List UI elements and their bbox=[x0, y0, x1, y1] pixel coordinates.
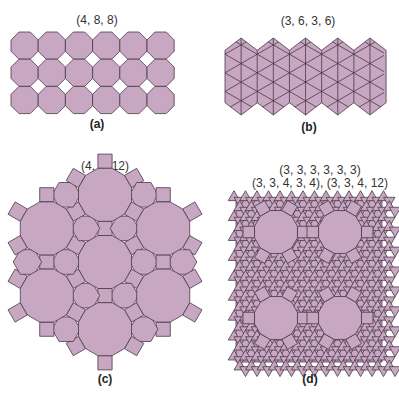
dodecagon bbox=[255, 297, 298, 340]
dodecagon bbox=[255, 211, 298, 254]
square bbox=[307, 226, 319, 238]
triangle bbox=[389, 227, 399, 237]
tiling-3-3-4-12 bbox=[0, 0, 399, 394]
triangle bbox=[389, 287, 399, 297]
square bbox=[307, 312, 319, 324]
square bbox=[361, 226, 373, 238]
triangle bbox=[389, 207, 399, 217]
triangle bbox=[389, 267, 399, 277]
triangle bbox=[389, 247, 399, 257]
dodecagon bbox=[319, 211, 362, 254]
triangle bbox=[389, 367, 399, 377]
dodecagon bbox=[319, 297, 362, 340]
triangle bbox=[389, 327, 399, 337]
square bbox=[243, 226, 255, 238]
square bbox=[361, 312, 373, 324]
square bbox=[243, 312, 255, 324]
caption-d: (d) bbox=[295, 372, 325, 386]
triangle bbox=[389, 307, 399, 317]
triangle bbox=[389, 347, 399, 357]
